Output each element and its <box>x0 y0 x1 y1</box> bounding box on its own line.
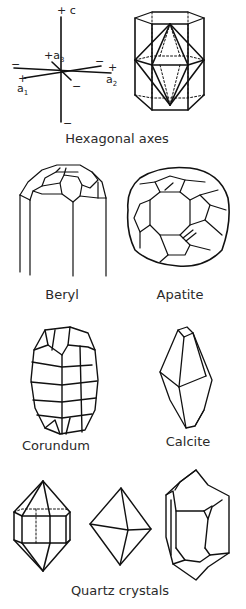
hexagonal-axes-caption: Hexagonal axes <box>65 131 168 146</box>
a2-axis-name-label: a2 <box>106 74 117 88</box>
apatite-caption: Apatite <box>157 287 204 302</box>
hexagonal-axes-drawing <box>14 17 111 122</box>
beryl-drawing <box>20 165 106 276</box>
corundum-drawing <box>31 327 98 434</box>
a2-axis-plus-label: + <box>108 62 117 73</box>
calcite-caption: Calcite <box>166 434 211 449</box>
quartz-crystals-caption: Quartz crystals <box>71 583 169 598</box>
quartz-3-drawing <box>166 470 229 580</box>
crystal-diagrams <box>0 0 246 609</box>
apatite-drawing <box>128 167 230 266</box>
a3-axis-minus-label: − <box>72 81 81 92</box>
beryl-caption: Beryl <box>45 287 79 302</box>
corundum-caption: Corundum <box>22 438 90 453</box>
calcite-drawing <box>160 327 212 428</box>
hexagonal-prism-drawing <box>135 12 204 110</box>
c-axis-plus-label: + c <box>57 5 76 16</box>
a1-axis-minus-label: − <box>11 59 20 70</box>
a3-axis-plus-label: +a3 <box>44 50 64 64</box>
a1-axis-name-label: a1 <box>17 83 28 97</box>
quartz-2-drawing <box>90 488 151 565</box>
c-axis-minus-label: − <box>63 118 72 129</box>
quartz-1-drawing <box>14 481 70 571</box>
a2-axis-minus-label: − <box>95 56 104 67</box>
